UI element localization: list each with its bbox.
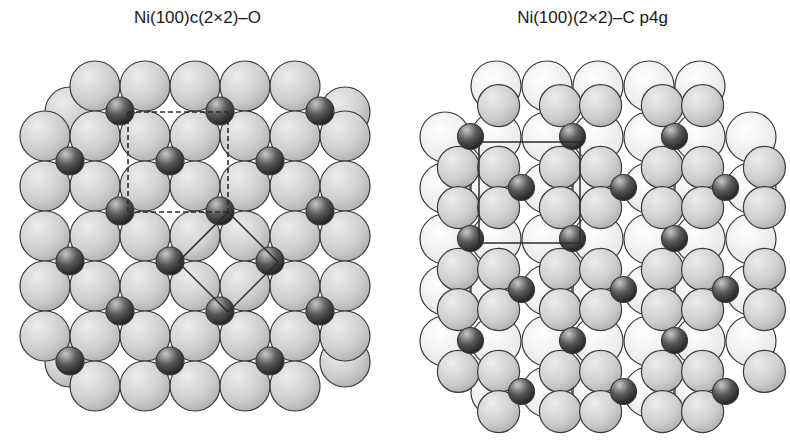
right-panel: Ni(100)(2×2)–C p4g bbox=[395, 0, 790, 448]
surface-ni-atom bbox=[539, 391, 581, 433]
surface-ni-atom bbox=[539, 146, 581, 188]
surface-ni-atom bbox=[539, 187, 581, 229]
ni100-2x2-c-p4g-structure bbox=[395, 0, 790, 448]
surface-ni-atom bbox=[743, 289, 785, 331]
carbon-adsorbate-atom bbox=[611, 379, 637, 405]
oxygen-adsorbate-atom bbox=[206, 97, 234, 125]
carbon-adsorbate-atom bbox=[611, 175, 637, 201]
oxygen-adsorbate-atom bbox=[106, 197, 134, 225]
oxygen-adsorbate-atom bbox=[306, 97, 334, 125]
carbon-adsorbate-atom bbox=[662, 226, 688, 252]
left-panel: Ni(100)c(2×2)–O bbox=[0, 0, 395, 448]
surface-ni-atom bbox=[539, 350, 581, 392]
surface-ni-atom bbox=[743, 350, 785, 392]
surface-ni-atom bbox=[539, 248, 581, 290]
carbon-adsorbate-atom bbox=[458, 328, 484, 354]
oxygen-adsorbate-atom bbox=[56, 347, 84, 375]
oxygen-adsorbate-atom bbox=[106, 297, 134, 325]
surface-ni-atom bbox=[641, 248, 683, 290]
surface-ni-atom bbox=[478, 85, 520, 127]
surface-ni-atom bbox=[437, 248, 479, 290]
oxygen-adsorbate-atom bbox=[56, 247, 84, 275]
surface-ni-atom bbox=[743, 187, 785, 229]
carbon-adsorbate-atom bbox=[611, 277, 637, 303]
carbon-adsorbate-atom bbox=[560, 328, 586, 354]
oxygen-adsorbate-atom bbox=[256, 347, 284, 375]
carbon-adsorbate-atom bbox=[560, 226, 586, 252]
surface-ni-atom bbox=[743, 146, 785, 188]
surface-ni-atom bbox=[437, 289, 479, 331]
oxygen-adsorbate-atom bbox=[306, 197, 334, 225]
surface-ni-atom bbox=[437, 187, 479, 229]
oxygen-adsorbate-atom bbox=[156, 347, 184, 375]
ni100-c2x2-o-structure bbox=[0, 0, 395, 448]
surface-ni-atom bbox=[580, 85, 622, 127]
oxygen-adsorbate-atom bbox=[306, 297, 334, 325]
carbon-adsorbate-atom bbox=[713, 379, 739, 405]
surface-ni-atom bbox=[641, 350, 683, 392]
surface-ni-atom bbox=[437, 146, 479, 188]
carbon-adsorbate-atom bbox=[713, 277, 739, 303]
surface-ni-atom bbox=[437, 350, 479, 392]
carbon-adsorbate-atom bbox=[509, 277, 535, 303]
carbon-adsorbate-atom bbox=[662, 328, 688, 354]
surface-ni-atom bbox=[539, 289, 581, 331]
oxygen-adsorbate-atom bbox=[256, 147, 284, 175]
carbon-adsorbate-atom bbox=[509, 379, 535, 405]
surface-ni-atom bbox=[641, 146, 683, 188]
surface-ni-atom bbox=[641, 85, 683, 127]
oxygen-adsorbate-atom bbox=[156, 147, 184, 175]
carbon-adsorbate-atom bbox=[713, 175, 739, 201]
carbon-adsorbate-atom bbox=[662, 124, 688, 150]
oxygen-adsorbate-atom bbox=[106, 97, 134, 125]
carbon-adsorbate-atom bbox=[509, 175, 535, 201]
surface-ni-atom bbox=[641, 289, 683, 331]
surface-ni-atom bbox=[641, 187, 683, 229]
surface-ni-atom bbox=[641, 391, 683, 433]
oxygen-adsorbate-atom bbox=[56, 147, 84, 175]
carbon-adsorbate-atom bbox=[560, 124, 586, 150]
surface-ni-atom bbox=[539, 85, 581, 127]
surface-ni-atom bbox=[743, 248, 785, 290]
surface-ni-atom bbox=[682, 85, 724, 127]
